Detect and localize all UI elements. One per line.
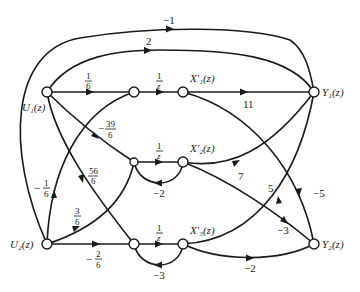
- label-x1: X′₁(z): [189, 72, 215, 85]
- node-y1: [309, 87, 319, 97]
- node-n1: [129, 87, 139, 97]
- edge-x3-n3: [134, 244, 183, 265]
- svg-text:1: 1: [86, 71, 91, 81]
- arrow-icon: [51, 190, 57, 198]
- gain-u2-n3: − 2 6: [86, 249, 102, 270]
- arrow-icon: [166, 26, 174, 33]
- gain-x2-n2: −2: [153, 187, 165, 199]
- gain-x1-y1: 11: [243, 98, 254, 110]
- edge-x2-n2: [134, 162, 183, 183]
- arrow-icon: [144, 47, 152, 54]
- label-x3: X′₃(z): [189, 224, 215, 237]
- gain-u2-n1: − 1 6: [34, 178, 50, 199]
- svg-text:1: 1: [157, 223, 162, 233]
- arrow-icon: [295, 188, 302, 197]
- gain-n3-x3: 1 z: [156, 223, 163, 243]
- svg-text:6: 6: [91, 176, 96, 186]
- node-n3: [129, 239, 139, 249]
- svg-text:z: z: [156, 151, 161, 161]
- arrow-icon: [276, 196, 282, 204]
- arrow-icon: [154, 180, 162, 187]
- node-u2: [42, 239, 52, 249]
- edge-x3-y2: [183, 244, 314, 258]
- svg-text:1: 1: [157, 141, 162, 151]
- gain-u2-n2: 3 6: [74, 206, 81, 227]
- gain-x2-y2: −3: [277, 224, 289, 236]
- svg-text:−: −: [86, 253, 92, 265]
- label-y1: Y₁(z): [322, 86, 344, 99]
- gain-x3-n3: −3: [153, 269, 165, 281]
- label-u2: U₂(z): [10, 238, 34, 251]
- node-n2: [130, 158, 138, 166]
- svg-text:z: z: [156, 81, 161, 91]
- node-y2: [309, 239, 319, 249]
- gain-u1-y1: 2: [146, 35, 152, 47]
- svg-text:6: 6: [75, 217, 80, 227]
- gain-x2-y1: 7: [238, 170, 244, 182]
- arrow-icon: [92, 241, 100, 248]
- label-u1: U₁(z): [22, 101, 46, 114]
- gain-u2-y1: −1: [163, 14, 175, 26]
- node-u1: [42, 87, 52, 97]
- label-y2: Y₂(z): [322, 238, 344, 251]
- node-x2: [178, 157, 188, 167]
- svg-text:1: 1: [157, 71, 162, 81]
- svg-text:6: 6: [96, 260, 101, 270]
- svg-text:z: z: [156, 233, 161, 243]
- arrow-icon: [78, 174, 84, 183]
- gain-x3-y2: −2: [244, 262, 256, 274]
- label-x2: X′₂(z): [189, 142, 215, 155]
- signal-flow-graph: U₁(z) U₂(z) X′₁(z) X′₂(z) X′₃(z) Y₁(z) Y…: [0, 0, 360, 292]
- arrow-icon: [232, 160, 240, 167]
- node-x1: [178, 87, 188, 97]
- gain-x1-y2: −5: [313, 187, 325, 199]
- svg-text:6: 6: [86, 81, 91, 91]
- svg-text:3: 3: [75, 206, 80, 216]
- svg-text:39: 39: [106, 119, 116, 129]
- svg-text:1: 1: [44, 178, 49, 188]
- svg-text:6: 6: [44, 189, 49, 199]
- gain-n1-x1: 1 z: [156, 71, 163, 91]
- svg-text:56: 56: [89, 166, 99, 176]
- gain-u1-n2: − 39 6: [98, 119, 116, 140]
- svg-text:−: −: [98, 122, 104, 134]
- arrow-icon: [240, 89, 248, 96]
- svg-text:2: 2: [96, 249, 101, 259]
- node-x3: [178, 239, 188, 249]
- arrow-icon: [246, 255, 254, 262]
- gain-u1-n1: 1 6: [85, 71, 92, 91]
- svg-text:−: −: [34, 182, 40, 194]
- arrow-icon: [154, 262, 162, 269]
- svg-text:6: 6: [108, 130, 113, 140]
- edge-u1-n2: [47, 92, 134, 162]
- gain-x3-y1: 5: [268, 182, 274, 194]
- gain-n2-x2: 1 z: [156, 141, 163, 161]
